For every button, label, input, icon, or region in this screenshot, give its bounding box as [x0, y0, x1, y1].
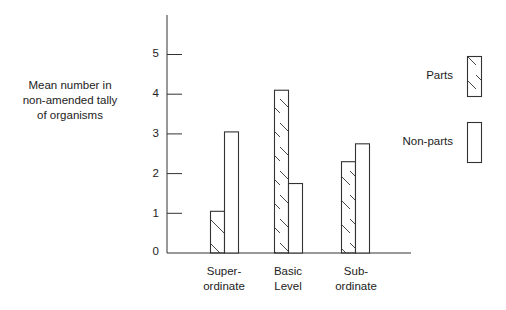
bar-parts	[275, 90, 289, 253]
bar-parts	[211, 211, 225, 253]
bar-non-parts	[356, 144, 370, 253]
bar-parts	[342, 162, 356, 253]
y-tick-1: 1	[145, 207, 159, 219]
legend-label-parts: Parts	[426, 69, 453, 81]
bar-non-parts	[289, 184, 303, 253]
x-category-subordinate: Sub- ordinate	[316, 264, 396, 294]
y-tick-5: 5	[145, 47, 159, 59]
legend-swatch-parts	[468, 57, 482, 97]
y-axis-label: Mean number in non-amended tally of orga…	[0, 78, 140, 123]
y-tick-4: 4	[145, 87, 159, 99]
y-tick-0: 0	[145, 245, 159, 257]
y-tick-2: 2	[145, 167, 159, 179]
legend-label-non-parts: Non-parts	[403, 135, 454, 147]
y-tick-3: 3	[145, 127, 159, 139]
bar-non-parts	[225, 132, 239, 253]
legend-swatch-non-parts	[468, 123, 482, 163]
